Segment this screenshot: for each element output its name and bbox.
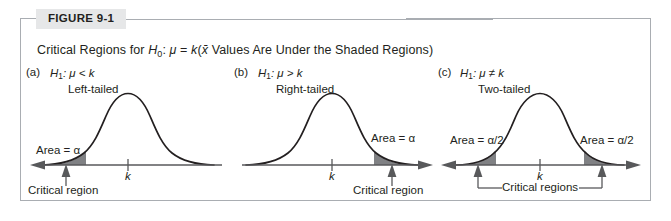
panel-a-region-label: Critical region [28, 184, 98, 196]
panel-c-area-label-right: Area = α/2 [580, 134, 634, 146]
figure-root: FIGURE 9-1 Critical Regions for H0: μ = … [0, 0, 671, 221]
panel-c-plot [438, 60, 653, 195]
panel-right-tailed: (b) H1: μ > k Right-tailed Area = α k Cr… [232, 60, 437, 195]
panel-c-axis-left-arrowhead [441, 161, 456, 170]
panel-b-region-pointer-arrowhead [388, 164, 397, 177]
panel-b-area-label: Area = α [371, 132, 415, 144]
caption-colon: : [162, 43, 169, 57]
panel-a-region-pointer-arrowhead [62, 164, 71, 177]
panel-c-bracket-left-arrowhead [474, 164, 483, 177]
caption-h0-symbol: H [148, 43, 157, 57]
panel-b-normal-curve [246, 94, 418, 166]
figure-rule-left [22, 18, 36, 19]
figure-header: FIGURE 9-1 [36, 8, 493, 30]
panel-a-axis-left-arrowhead [30, 161, 45, 170]
panel-c-normal-curve [456, 94, 624, 166]
panel-two-tailed: (c) H1: μ ≠ k Two-tailed Area = α/2 [438, 60, 653, 195]
figure-badge-label: FIGURE 9-1 [36, 9, 126, 29]
figure-header-rule [126, 19, 493, 20]
panel-b-axis-right-arrowhead [418, 161, 433, 170]
panel-c-region-label: Critical regions [502, 181, 578, 193]
panel-a-k-label: k [125, 170, 131, 182]
caption-equals: = [177, 43, 192, 57]
panel-c-bracket-right-arrowhead [598, 164, 607, 177]
caption-mu-symbol: μ [170, 43, 177, 57]
panel-c-axis-right-arrowhead [626, 161, 641, 170]
caption-prefix: Critical Regions for [37, 43, 148, 57]
panel-c-area-label-left: Area = α/2 [450, 134, 504, 146]
panel-b-k-label: k [329, 170, 335, 182]
figure-caption: Critical Regions for H0: μ = k(x̄ Values… [37, 43, 433, 59]
panel-left-tailed: (a) H1: μ < k Left-tailed Area = α k Cri… [26, 60, 231, 195]
caption-tail-text: Values Are Under the Shaded Regions) [208, 43, 433, 57]
panel-a-area-label: Area = α [36, 144, 80, 156]
panel-b-region-label: Critical region [353, 184, 423, 196]
